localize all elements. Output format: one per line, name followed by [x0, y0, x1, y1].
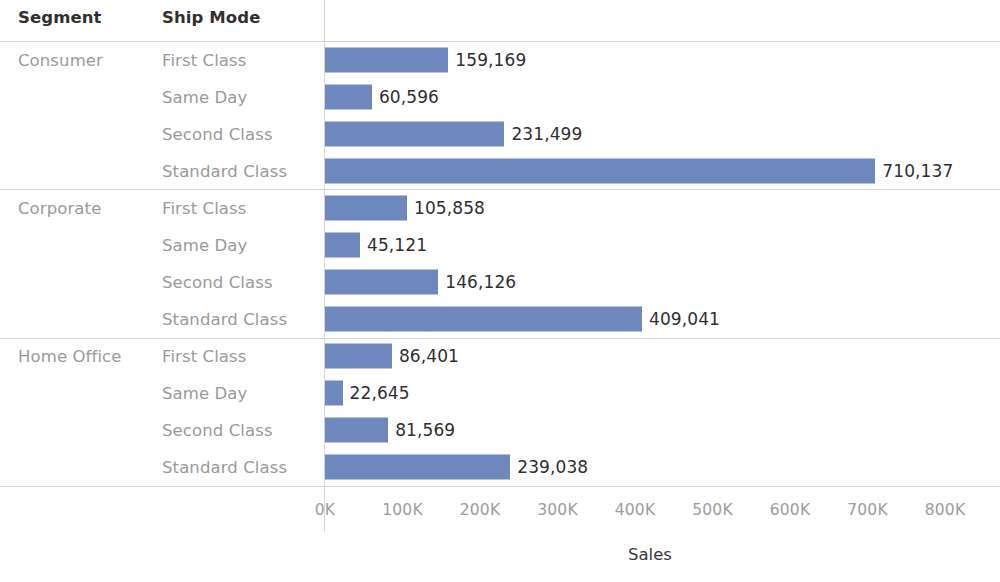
table-row[interactable]: Standard Class710,137 — [0, 152, 1000, 189]
row-header-ship-mode[interactable]: Second Class — [162, 273, 273, 292]
axis-rule — [0, 486, 1000, 487]
x-axis-tick-label: 200K — [460, 501, 501, 519]
bar-value-label: 146,126 — [445, 272, 516, 292]
x-axis-tick-label: 400K — [615, 501, 656, 519]
row-header-ship-mode[interactable]: Standard Class — [162, 310, 287, 329]
row-header-ship-mode[interactable]: Same Day — [162, 87, 247, 106]
row-header-ship-mode[interactable]: First Class — [162, 50, 246, 69]
bar-value-label: 159,169 — [455, 50, 526, 70]
table-row[interactable]: Same Day60,596 — [0, 78, 1000, 115]
x-axis-tick-label: 300K — [537, 501, 578, 519]
row-header-segment[interactable]: Home Office — [18, 347, 121, 366]
column-header-segment[interactable]: Segment — [18, 8, 102, 27]
bar-value-label: 22,645 — [350, 383, 410, 403]
x-axis-tick-label: 0K — [315, 501, 335, 519]
x-axis: 0K100K200K300K400K500K600K700K800KSales — [0, 501, 1000, 561]
table-row[interactable]: Second Class81,569 — [0, 412, 1000, 449]
bar[interactable] — [325, 307, 642, 332]
bar-value-label: 60,596 — [379, 87, 439, 107]
row-header-segment[interactable]: Corporate — [18, 198, 101, 217]
x-axis-tick-label: 100K — [382, 501, 423, 519]
bar-value-label: 231,499 — [511, 124, 582, 144]
bar-value-label: 710,137 — [882, 161, 953, 181]
table-row[interactable]: ConsumerFirst Class159,169 — [0, 41, 1000, 78]
row-header-ship-mode[interactable]: Same Day — [162, 384, 247, 403]
x-axis-title[interactable]: Sales — [628, 545, 672, 564]
bar[interactable] — [325, 47, 448, 72]
bar[interactable] — [325, 84, 372, 109]
bar-value-label: 45,121 — [367, 235, 427, 255]
bar[interactable] — [325, 195, 407, 220]
row-header-ship-mode[interactable]: Second Class — [162, 421, 273, 440]
bar-value-label: 105,858 — [414, 198, 485, 218]
table-header: Segment Ship Mode — [0, 0, 1000, 41]
table-row[interactable]: Standard Class239,038 — [0, 449, 1000, 486]
table-row[interactable]: Second Class146,126 — [0, 264, 1000, 301]
row-header-ship-mode[interactable]: First Class — [162, 347, 246, 366]
row-header-ship-mode[interactable]: Second Class — [162, 124, 273, 143]
row-header-segment[interactable]: Consumer — [18, 50, 103, 69]
table-row[interactable]: Second Class231,499 — [0, 115, 1000, 152]
x-axis-tick-label: 700K — [847, 501, 888, 519]
bar[interactable] — [325, 232, 360, 257]
table-row[interactable]: Same Day22,645 — [0, 375, 1000, 412]
bar-value-label: 409,041 — [649, 309, 720, 329]
bar[interactable] — [325, 158, 875, 183]
sales-by-segment-ship-mode-chart: Segment Ship Mode ConsumerFirst Class159… — [0, 0, 1000, 582]
bar[interactable] — [325, 455, 510, 480]
bar-value-label: 239,038 — [517, 457, 588, 477]
bar-value-label: 81,569 — [395, 420, 455, 440]
row-header-ship-mode[interactable]: First Class — [162, 198, 246, 217]
row-header-ship-mode[interactable]: Standard Class — [162, 161, 287, 180]
bar[interactable] — [325, 121, 504, 146]
row-header-ship-mode[interactable]: Standard Class — [162, 458, 287, 477]
table-row[interactable]: Same Day45,121 — [0, 226, 1000, 263]
row-header-ship-mode[interactable]: Same Day — [162, 235, 247, 254]
bar[interactable] — [325, 381, 343, 406]
table-row[interactable]: CorporateFirst Class105,858 — [0, 189, 1000, 226]
x-axis-tick-label: 600K — [770, 501, 811, 519]
column-header-ship-mode[interactable]: Ship Mode — [162, 8, 261, 27]
x-axis-tick-label: 500K — [692, 501, 733, 519]
table-row[interactable]: Home OfficeFirst Class86,401 — [0, 338, 1000, 375]
bar-value-label: 86,401 — [399, 346, 459, 366]
bar[interactable] — [325, 344, 392, 369]
x-axis-tick-label: 800K — [925, 501, 966, 519]
bar[interactable] — [325, 418, 388, 443]
bar[interactable] — [325, 270, 438, 295]
table-row[interactable]: Standard Class409,041 — [0, 301, 1000, 338]
